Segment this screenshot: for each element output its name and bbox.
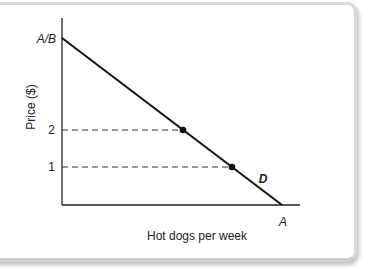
point-price-2 [180, 127, 187, 134]
y-tick-1: 1 [48, 160, 55, 174]
demand-chart: A/B 2 1 A D Hot dogs per week Price ($) [0, 0, 370, 269]
x-axis-title: Hot dogs per week [147, 229, 248, 243]
demand-curve [62, 38, 282, 205]
y-axis-title: Price ($) [24, 84, 38, 129]
y-tick-2: 2 [48, 123, 55, 137]
curve-label-d: D [259, 172, 268, 186]
point-price-1 [229, 164, 236, 171]
y-intercept-label: A/B [36, 32, 56, 46]
x-intercept-label: A [278, 215, 287, 229]
